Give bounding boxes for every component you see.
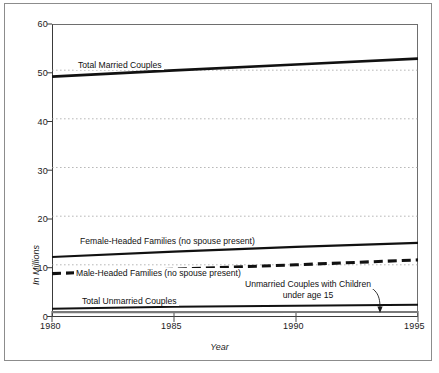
annotation-unmarried-couples-with-children-line2: under age 15 [242, 290, 374, 300]
annotation-female-headed-families: Female-Headed Families (no spouse presen… [78, 236, 257, 246]
annotation-male-headed-families: Male-Headed Families (no spouse present) [74, 268, 243, 278]
annotation-total-married-couples: Total Married Couples [76, 60, 164, 70]
figure-container: In Millions 60 50 40 30 20 10 0 1980 198… [0, 0, 439, 373]
annotation-total-unmarried-couples: Total Unmarried Couples [80, 296, 179, 306]
y-tick-marks [47, 24, 52, 317]
annotation-unmarried-couples-with-children-line1: Unmarried Couples with Children [242, 279, 374, 289]
chart-svg [0, 0, 439, 373]
